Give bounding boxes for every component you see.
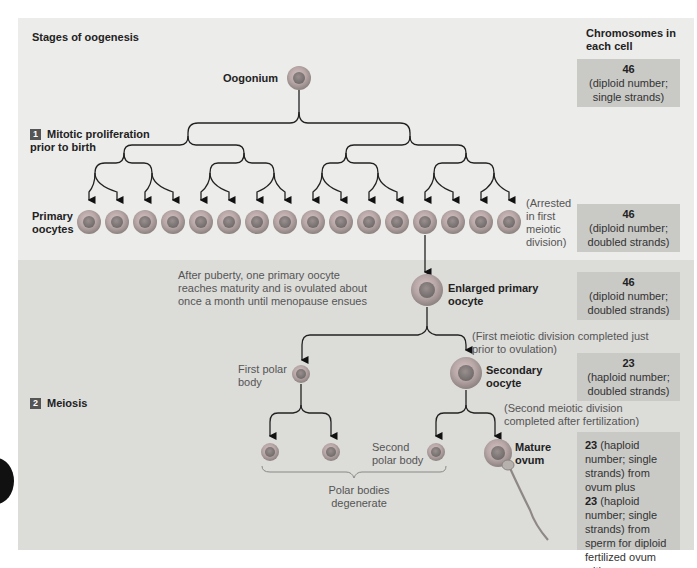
secondary-oocyte-label: Secondary oocyte — [486, 364, 546, 390]
first-polar-body-label: First polar body — [238, 363, 288, 389]
polar-bodies-note: Polar bodies degenerate — [324, 484, 394, 510]
second-polar-body-label: Second polar body — [372, 441, 432, 467]
polar-body-cell-1 — [261, 443, 279, 461]
stage-1-label: 1Mitotic proliferation prior to birth — [30, 128, 170, 154]
polar-body-cell-2 — [322, 443, 340, 461]
chromosome-box-ovum: 23 (haploid number; single strands) from… — [577, 432, 680, 550]
mature-ovum-label: Mature ovum — [515, 441, 555, 467]
primary-oocytes-label: Primary oocytes — [32, 210, 82, 236]
oogonium-cell — [287, 66, 311, 90]
polar-body-split — [270, 384, 331, 436]
enlarged-primary-label: Enlarged primary oocyte — [448, 282, 548, 308]
stage-2-label: 2Meiosis — [30, 397, 87, 410]
first-polar-body-cell — [292, 365, 310, 383]
oogonium-label: Oogonium — [223, 72, 278, 85]
second-meiotic-note: (Second meiotic division completed after… — [504, 402, 674, 428]
meiosis-2-split — [436, 390, 495, 436]
meiosis-1-split — [302, 307, 466, 360]
secondary-oocyte-cell — [450, 357, 482, 389]
polar-bodies-brace — [262, 466, 446, 478]
chromosome-box-enlarged: 46 (diploid number; doubled strands) — [577, 272, 680, 320]
chromosome-header: Chromosomes in each cell — [586, 27, 686, 53]
stage-2-number: 2 — [30, 398, 41, 409]
puberty-note: After puberty, one primary oocyte reache… — [178, 269, 378, 308]
chromosome-box-secondary: 23 (haploid number; doubled strands) — [577, 353, 680, 401]
page-title: Stages of oogenesis — [32, 31, 139, 44]
chromosome-box-oogonium: 46 (diploid number; single strands) — [577, 59, 680, 107]
mitosis-arrows — [89, 173, 509, 200]
chromosome-box-primary: 46 (diploid number; doubled strands) — [577, 204, 680, 252]
enlarged-primary-oocyte-cell — [411, 274, 443, 306]
arrested-note: (Arrested in first meiotic division) — [526, 197, 576, 249]
stage-1-number: 1 — [30, 129, 41, 140]
primary-oocytes-row — [77, 210, 521, 234]
